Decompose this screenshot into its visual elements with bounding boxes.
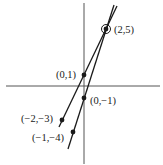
point-2-5: [104, 27, 109, 32]
label-neg1-neg4: (−1,−4): [32, 132, 64, 144]
point-neg2-neg3: [60, 118, 65, 123]
point-0-1: [82, 73, 87, 78]
point-0-neg1: [82, 96, 87, 101]
coordinate-graph: (2,5) (0,1) (0,−1) (−2,−3) (−1,−4): [0, 0, 163, 165]
label-0-neg1: (0,−1): [90, 95, 117, 107]
point-neg1-neg4: [71, 130, 76, 135]
label-neg2-neg3: (−2,−3): [21, 113, 53, 125]
label-2-5: (2,5): [114, 24, 135, 36]
label-0-1: (0,1): [56, 69, 77, 81]
